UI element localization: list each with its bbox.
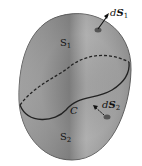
area-element-ds2 xyxy=(104,115,111,120)
surface-body xyxy=(19,14,131,160)
label-curve-c: C xyxy=(70,106,78,116)
label-s1: S1 xyxy=(60,38,71,50)
arrowhead-ds1-icon xyxy=(104,13,109,19)
label-ds2: dS2 xyxy=(102,100,120,112)
label-s2: S2 xyxy=(60,132,71,144)
label-ds1: dS1 xyxy=(110,8,128,20)
